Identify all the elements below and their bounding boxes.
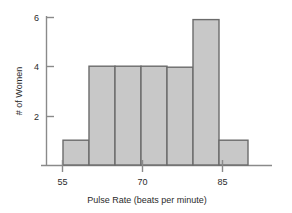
bar-5: [193, 20, 219, 165]
y-axis-title: # of Women: [14, 67, 24, 115]
bar-0: [63, 140, 89, 165]
y-tick-label-4: 4: [34, 62, 39, 72]
bar-1: [89, 66, 115, 165]
bar-2: [115, 66, 141, 165]
chart-canvas: 2 4 6 # of Women 55 70 85 Pulse Rate (be…: [0, 0, 292, 213]
x-tick-label-85: 85: [217, 177, 227, 187]
bar-3: [141, 66, 167, 165]
x-axis-title: Pulse Rate (beats per minute): [87, 195, 207, 205]
y-tick-label-2: 2: [34, 112, 39, 122]
histogram-chart: 2 4 6 # of Women 55 70 85 Pulse Rate (be…: [0, 0, 292, 213]
x-tick-label-55: 55: [57, 177, 67, 187]
x-tick-label-70: 70: [137, 177, 147, 187]
y-tick-label-6: 6: [34, 13, 39, 23]
bar-6: [219, 140, 248, 165]
bar-4: [167, 67, 193, 165]
